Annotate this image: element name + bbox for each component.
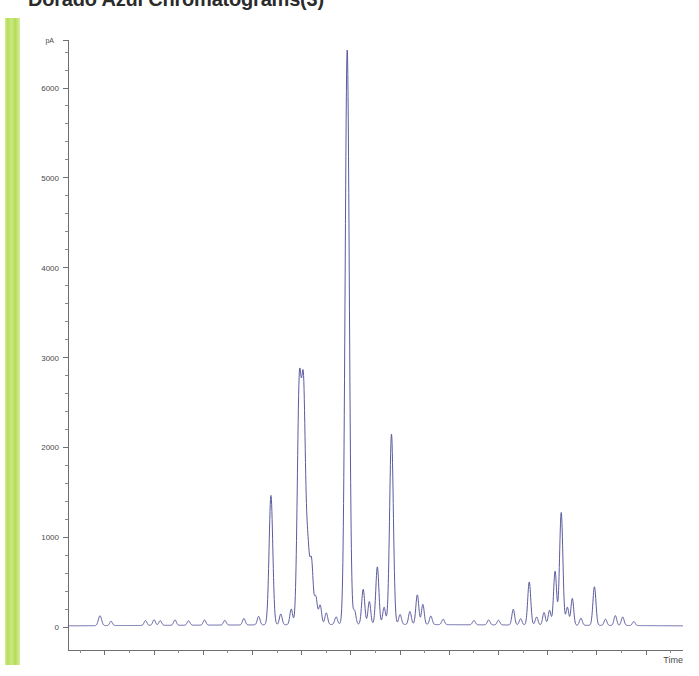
chromatogram-plot: 0100020003000400050006000 pA Time <box>0 0 699 676</box>
y-axis: 0100020003000400050006000 <box>41 40 68 650</box>
chromatogram-svg: 0100020003000400050006000 pA Time <box>0 0 699 676</box>
y-tick-label: 4000 <box>41 264 59 273</box>
y-tick-label: 2000 <box>41 443 59 452</box>
y-axis-unit-label: pA <box>45 37 54 45</box>
y-tick-label: 0 <box>55 623 60 632</box>
y-tick-label: 6000 <box>41 84 59 93</box>
chromatogram-trace <box>68 50 683 626</box>
trace-line <box>68 50 683 626</box>
x-axis <box>68 644 683 655</box>
y-tick-label: 3000 <box>41 354 59 363</box>
y-tick-label: 5000 <box>41 174 59 183</box>
x-axis-title: Time <box>663 655 683 665</box>
y-tick-label: 1000 <box>41 533 59 542</box>
